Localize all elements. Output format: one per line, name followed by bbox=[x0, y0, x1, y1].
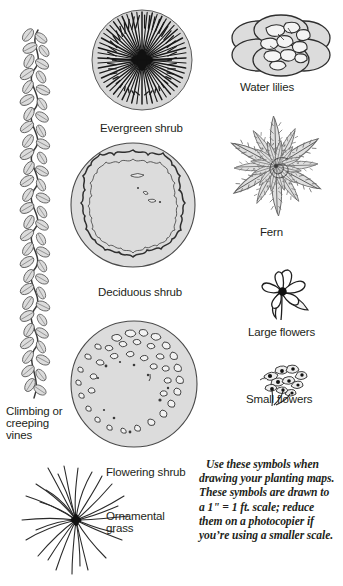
label-large-flowers: Large flowers bbox=[248, 326, 315, 339]
label-climbing-creeping-vines: Climbing or creeping vines bbox=[6, 405, 63, 441]
label-deciduous-shrub: Deciduous shrub bbox=[98, 286, 182, 299]
single-large-blossom-icon bbox=[248, 268, 320, 322]
label-evergreen-shrub: Evergreen shrub bbox=[100, 122, 183, 135]
vine-with-leaves-icon bbox=[8, 28, 70, 400]
speckled-blossom-circle-icon bbox=[68, 318, 200, 450]
star-frond-rosette-icon bbox=[216, 112, 340, 224]
label-small-flowers: Small flowers bbox=[246, 393, 312, 406]
label-water-lilies: Water lilies bbox=[240, 81, 294, 94]
radiating-needles-circle-icon bbox=[90, 8, 194, 114]
label-ornamental-grass: Ornamental grass bbox=[106, 510, 165, 534]
scalloped-ring-circle-icon bbox=[68, 140, 198, 270]
overlapping-lily-pads-icon bbox=[228, 8, 336, 84]
symbol-legend-figure: Climbing or creeping vines bbox=[0, 0, 343, 586]
label-fern: Fern bbox=[260, 226, 283, 239]
usage-note: Use these symbols when drawing your plan… bbox=[199, 458, 335, 543]
